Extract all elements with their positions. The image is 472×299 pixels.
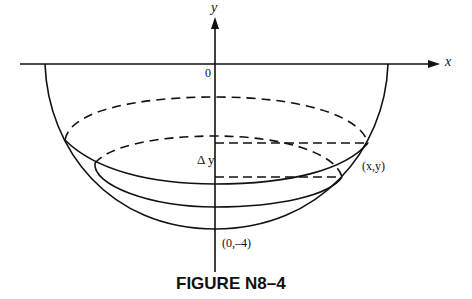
bowl-diagram [0, 0, 472, 299]
figure-caption: FIGURE N8–4 [176, 274, 286, 294]
y-axis-arrow-icon [211, 17, 219, 29]
x-axis-label: x [445, 54, 451, 70]
lower-disk-back [95, 136, 342, 177]
x-axis-arrow-icon [428, 60, 440, 68]
bottom-point-label: (0,–4) [222, 236, 251, 251]
origin-label: 0 [205, 66, 211, 81]
point-label: (x,y) [362, 159, 385, 174]
bowl-outline [45, 64, 388, 229]
delta-y-label: Δ y [197, 152, 214, 168]
y-axis-label: y [211, 0, 217, 16]
lower-disk-front [95, 163, 342, 207]
